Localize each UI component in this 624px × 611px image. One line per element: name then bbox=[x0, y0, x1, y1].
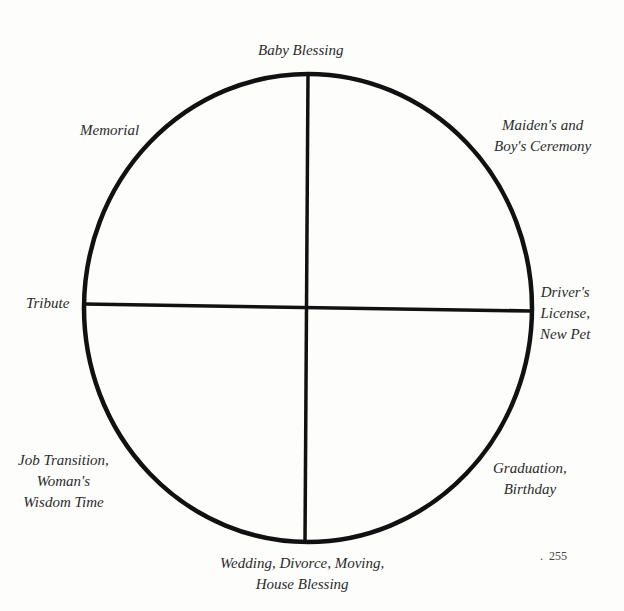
label-text: Driver's bbox=[540, 282, 590, 303]
label-text: License, bbox=[540, 303, 590, 324]
label-text: Woman's bbox=[18, 471, 109, 492]
label-top: Baby Blessing bbox=[258, 40, 343, 61]
label-top-right: Maiden's and Boy's Ceremony bbox=[494, 115, 591, 157]
page-number-prefix: . bbox=[540, 549, 543, 563]
page-number-value: 255 bbox=[549, 549, 567, 563]
label-text: Memorial bbox=[80, 120, 139, 141]
label-right: Driver's License, New Pet bbox=[540, 282, 590, 345]
label-text: Wedding, Divorce, Moving, bbox=[220, 553, 384, 574]
label-bottom-right: Graduation, Birthday bbox=[493, 458, 567, 500]
label-text: Boy's Ceremony bbox=[494, 136, 591, 157]
label-top-left: Memorial bbox=[80, 120, 139, 141]
label-text: New Pet bbox=[540, 324, 590, 345]
label-text: Graduation, bbox=[493, 458, 567, 479]
label-text: Job Transition, bbox=[18, 450, 109, 471]
label-text: Birthday bbox=[493, 479, 567, 500]
label-bottom-left: Job Transition, Woman's Wisdom Time bbox=[18, 450, 109, 513]
label-left: Tribute bbox=[26, 293, 69, 314]
label-text: Wisdom Time bbox=[18, 492, 109, 513]
wheel-diagram bbox=[0, 0, 624, 611]
label-text: Tribute bbox=[26, 293, 69, 314]
label-bottom: Wedding, Divorce, Moving, House Blessing bbox=[220, 553, 384, 595]
label-text: Maiden's and bbox=[494, 115, 591, 136]
page-number: . 255 bbox=[540, 549, 567, 564]
label-text: Baby Blessing bbox=[258, 40, 343, 61]
label-text: House Blessing bbox=[220, 574, 384, 595]
